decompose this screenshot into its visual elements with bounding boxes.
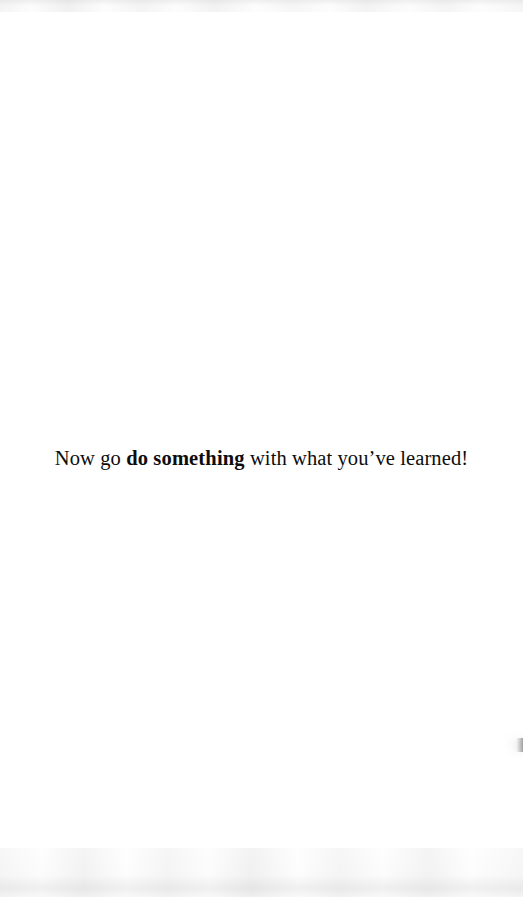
scanned-page: Now go do something with what you’ve lea… (0, 0, 523, 897)
right-edge-smudge (515, 738, 523, 752)
sentence-part-leading: Now go (55, 447, 126, 469)
sentence-part-trailing: with what you’ve learned! (245, 447, 468, 469)
right-edge-smudge-halo (505, 732, 523, 758)
scan-noise-bottom-edge (0, 848, 523, 897)
scan-noise-top-edge (0, 0, 523, 12)
closing-sentence: Now go do something with what you’ve lea… (55, 445, 468, 472)
sentence-part-bold: do something (126, 447, 245, 469)
body-text-block: Now go do something with what you’ve lea… (0, 424, 523, 492)
